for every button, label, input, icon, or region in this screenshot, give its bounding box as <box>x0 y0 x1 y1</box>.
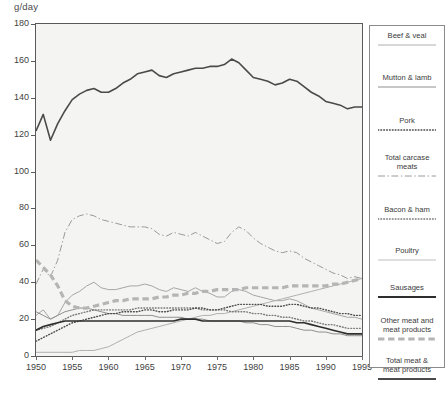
y-axis-tick-mark <box>31 135 35 136</box>
legend-item[interactable]: Sausages <box>370 284 444 300</box>
y-axis-tick-label: 80 <box>2 202 29 212</box>
y-axis-tick-label: 0 <box>2 350 29 360</box>
series-line <box>36 59 362 140</box>
x-axis-tick-mark <box>36 356 37 360</box>
y-axis-tick-label: 180 <box>2 18 29 28</box>
y-axis-tick-label: 20 <box>2 313 29 323</box>
series-line <box>36 282 362 319</box>
legend-swatch-line-icon <box>378 173 436 179</box>
legend-item-label: Mutton & lamb <box>383 74 432 83</box>
chart-container: g/day 020406080100120140160180 195019551… <box>0 0 448 399</box>
plot-area <box>35 23 363 357</box>
y-axis-tick-mark <box>31 61 35 62</box>
x-axis-tick-label: 1965 <box>128 362 162 372</box>
x-axis-tick-label: 1955 <box>55 362 89 372</box>
legend-item-label: Total meat & meat products <box>383 357 431 374</box>
x-axis-tick-label: 1990 <box>309 362 343 372</box>
legend-item[interactable]: Total carcase meats <box>370 154 444 179</box>
x-axis-tick-mark <box>72 356 73 360</box>
series-canvas <box>36 24 362 356</box>
legend-swatch-line-icon <box>378 84 436 90</box>
series-line <box>36 304 362 341</box>
legend-item[interactable]: Other meat and meat products <box>370 317 444 342</box>
y-axis-tick-mark <box>31 208 35 209</box>
legend-item[interactable]: Pork <box>370 117 444 133</box>
y-axis-unit-label: g/day <box>14 1 38 12</box>
x-axis-tick-label: 1960 <box>91 362 125 372</box>
legend-swatch-line-icon <box>378 216 436 222</box>
legend-item-label: Bacon & ham <box>384 206 430 215</box>
y-axis-tick-mark <box>31 172 35 173</box>
x-axis-tick-mark <box>253 356 254 360</box>
legend-swatch-line-icon <box>378 336 436 342</box>
y-axis-tick-label: 120 <box>2 129 29 139</box>
legend-swatch-line-icon <box>378 257 436 263</box>
x-axis-tick-label: 1970 <box>164 362 198 372</box>
series-line <box>36 214 362 284</box>
x-axis-tick-mark <box>326 356 327 360</box>
y-axis-tick-mark <box>31 24 35 25</box>
legend-item-label: Other meat and meat products <box>381 317 434 334</box>
y-axis-tick-label: 160 <box>2 55 29 65</box>
legend-swatch-line-icon <box>378 127 436 133</box>
series-line <box>36 260 362 308</box>
x-axis-tick-mark <box>362 356 363 360</box>
legend-item[interactable]: Bacon & ham <box>370 206 444 222</box>
legend-item[interactable]: Beef & veal <box>370 32 444 48</box>
x-axis-tick-label: 1980 <box>236 362 270 372</box>
legend-item[interactable]: Poultry <box>370 247 444 263</box>
x-axis-tick-mark <box>145 356 146 360</box>
x-axis-tick-label: 1985 <box>273 362 307 372</box>
x-axis-tick-mark <box>290 356 291 360</box>
legend-swatch-line-icon <box>378 42 436 48</box>
legend: Beef & vealMutton & lambPorkTotal carcas… <box>369 25 445 368</box>
legend-item-label: Beef & veal <box>388 32 427 41</box>
y-axis-tick-mark <box>31 319 35 320</box>
legend-item-label: Poultry <box>395 247 419 256</box>
y-axis-tick-mark <box>31 245 35 246</box>
y-axis-tick-label: 100 <box>2 166 29 176</box>
y-axis-tick-label: 40 <box>2 276 29 286</box>
x-axis-tick-label: 1975 <box>200 362 234 372</box>
y-axis-tick-mark <box>31 282 35 283</box>
legend-swatch-line-icon <box>378 376 436 382</box>
series-line <box>36 319 362 334</box>
y-axis-tick-label: 60 <box>2 239 29 249</box>
x-axis-tick-mark <box>217 356 218 360</box>
x-axis-tick-label: 1950 <box>19 362 53 372</box>
x-axis-tick-mark <box>108 356 109 360</box>
x-axis-tick-mark <box>181 356 182 360</box>
legend-item-label: Sausages <box>390 284 424 293</box>
y-axis-tick-mark <box>31 356 35 357</box>
y-axis-tick-mark <box>31 98 35 99</box>
legend-item-label: Pork <box>399 117 415 126</box>
legend-item[interactable]: Total meat & meat products <box>370 357 444 382</box>
legend-item-label: Total carcase meats <box>385 154 430 171</box>
legend-item[interactable]: Mutton & lamb <box>370 74 444 90</box>
y-axis-tick-label: 140 <box>2 92 29 102</box>
legend-swatch-line-icon <box>378 294 436 300</box>
